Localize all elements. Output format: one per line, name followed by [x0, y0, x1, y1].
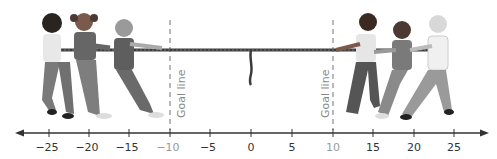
tick-label: 15: [366, 141, 380, 154]
tick-label: 25: [447, 141, 461, 154]
tick-label: 10: [326, 141, 340, 154]
kid-left-2: [70, 13, 112, 119]
arrow-right-icon: [480, 130, 489, 137]
kid-right-1: [336, 13, 380, 114]
tick-label: 20: [407, 141, 421, 154]
tick-labels: −25 −20 −15 −10 −5 0 5 10 15 20 25: [35, 141, 461, 154]
tick-label: 5: [289, 141, 296, 154]
goal-line-left: Goal line: [170, 20, 188, 130]
arrow-left-icon: [15, 130, 24, 137]
number-line: −25 −20 −15 −10 −5 0 5 10 15 20 25: [15, 129, 489, 154]
tick-label: −15: [115, 141, 138, 154]
goal-line-left-label: Goal line: [175, 69, 188, 118]
right-team: [336, 13, 454, 120]
kid-left-1: [42, 13, 74, 119]
tick-label: 0: [248, 141, 255, 154]
tick-label: −5: [200, 141, 216, 154]
tick-label: −20: [75, 141, 98, 154]
tug-of-war-diagram: Goal line Goal line: [0, 0, 497, 159]
rope-center-marker: [250, 50, 252, 85]
tick-label: −25: [35, 141, 58, 154]
tick-label: −10: [156, 141, 179, 154]
left-team: [42, 13, 164, 119]
goal-line-right-label: Goal line: [319, 69, 332, 118]
kid-left-3: [114, 19, 164, 118]
goal-line-right: Goal line: [319, 20, 333, 130]
